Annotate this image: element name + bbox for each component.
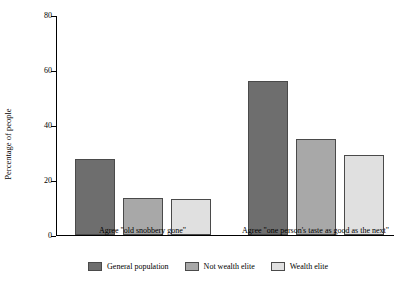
legend-item: General population	[88, 262, 169, 271]
legend-label: General population	[107, 263, 169, 271]
legend-swatch	[185, 262, 199, 271]
x-axis-category-label: Agree "old snobbery gone"	[99, 226, 186, 235]
bar	[75, 159, 115, 235]
y-axis-tick-label: 60	[44, 67, 52, 75]
legend-item: Wealth elite	[271, 262, 328, 271]
y-axis-line	[56, 16, 57, 236]
bar	[344, 155, 384, 235]
x-axis-line	[56, 235, 394, 236]
y-axis-title: Percentage of people	[3, 108, 13, 179]
legend-label: Wealth elite	[290, 263, 328, 271]
y-axis-tick-label: 40	[44, 122, 52, 130]
y-axis-tick-label: 80	[44, 12, 52, 20]
legend-label: Not wealth elite	[204, 263, 255, 271]
bar	[248, 81, 288, 235]
x-axis-category-label: Agree "one person's taste as good as the…	[242, 226, 389, 235]
chart-legend: General populationNot wealth eliteWealth…	[0, 262, 416, 271]
legend-item: Not wealth elite	[185, 262, 255, 271]
legend-swatch	[88, 262, 102, 271]
bar	[296, 139, 336, 235]
y-axis-tick-label: 0	[48, 232, 52, 240]
bar-chart: Percentage of people 020406080 Agree "ol…	[0, 0, 416, 288]
legend-swatch	[271, 262, 285, 271]
y-axis-tick-label: 20	[44, 177, 52, 185]
plot-area: 020406080	[56, 16, 394, 236]
